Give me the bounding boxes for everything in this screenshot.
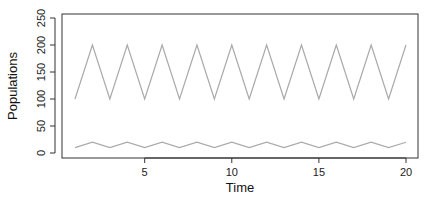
y-tick-label: 0 bbox=[35, 150, 47, 156]
x-axis: 5101520 bbox=[142, 158, 413, 178]
y-tick-label: 250 bbox=[35, 9, 47, 27]
x-tick-label: 15 bbox=[313, 166, 325, 178]
x-tick-label: 5 bbox=[142, 166, 148, 178]
series-line-1 bbox=[75, 45, 406, 99]
y-tick-label: 150 bbox=[35, 63, 47, 81]
data-series bbox=[75, 45, 406, 148]
plot-frame bbox=[62, 14, 418, 158]
x-tick-label: 10 bbox=[226, 166, 238, 178]
y-axis: 050100150200250 bbox=[35, 9, 55, 156]
x-axis-label: Time bbox=[226, 180, 254, 195]
y-tick-label: 50 bbox=[35, 120, 47, 132]
y-tick-label: 200 bbox=[35, 36, 47, 54]
y-axis-label: Populations bbox=[5, 52, 20, 120]
y-tick-label: 100 bbox=[35, 90, 47, 108]
population-line-chart: 050100150200250 5101520 Time Populations bbox=[0, 0, 441, 202]
x-tick-label: 20 bbox=[400, 166, 412, 178]
series-line-2 bbox=[75, 142, 406, 147]
